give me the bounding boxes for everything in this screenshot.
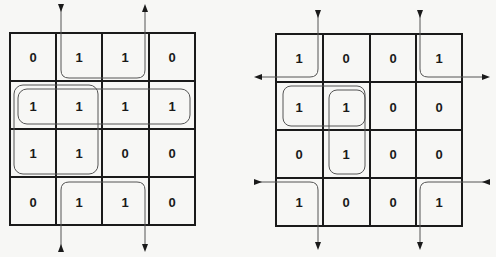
right-kmap: 1 0 0 1 1 1 0 0 0 1 0 0 1 0 0 1 (258, 14, 486, 246)
cell-r-2-2: 0 (389, 147, 396, 162)
cell-l-0-1: 1 (75, 50, 82, 65)
cell-l-3-0: 0 (29, 195, 36, 210)
cell-l-0-3: 0 (168, 50, 175, 65)
cell-r-3-3: 1 (435, 195, 442, 210)
cell-l-3-2: 1 (121, 195, 128, 210)
cell-l-1-0: 1 (29, 99, 36, 114)
cell-l-2-1: 1 (75, 146, 82, 161)
cell-r-3-0: 1 (295, 195, 302, 210)
left-kmap: 0 1 1 0 1 1 1 1 1 1 0 0 0 1 1 0 (10, 8, 195, 248)
right-grid (276, 34, 462, 226)
cell-l-2-3: 0 (168, 146, 175, 161)
cell-l-0-0: 0 (29, 50, 36, 65)
cell-l-3-1: 1 (75, 195, 82, 210)
group-row1 (18, 89, 190, 124)
cell-r-3-1: 0 (342, 195, 349, 210)
cell-r-1-2: 0 (389, 100, 396, 115)
corner-bottom-right-arrow-icon (420, 182, 486, 246)
kmap-diagram: 0 1 1 0 1 1 1 1 1 1 0 0 0 1 1 0 (0, 0, 496, 257)
cell-l-1-3: 1 (168, 99, 175, 114)
cell-r-2-1: 1 (342, 147, 349, 162)
cell-r-2-3: 0 (435, 147, 442, 162)
cell-r-0-2: 0 (389, 51, 396, 66)
cell-l-2-0: 1 (29, 146, 36, 161)
corner-top-right-arrow-icon (420, 14, 486, 77)
cell-r-3-2: 0 (389, 195, 396, 210)
corner-top-left-arrow-icon (258, 14, 318, 77)
cell-r-1-3: 0 (435, 100, 442, 115)
cell-r-0-0: 1 (295, 51, 302, 66)
cell-r-0-1: 0 (342, 51, 349, 66)
left-grid (10, 33, 195, 225)
cell-r-2-0: 0 (295, 147, 302, 162)
cell-l-1-1: 1 (75, 99, 82, 114)
cell-l-0-2: 1 (121, 50, 128, 65)
cell-r-1-0: 1 (295, 100, 302, 115)
cell-l-2-2: 0 (121, 146, 128, 161)
cell-r-0-3: 1 (435, 51, 442, 66)
corner-bottom-left-arrow-icon (258, 182, 318, 246)
cell-l-1-2: 1 (121, 99, 128, 114)
cell-r-1-1: 1 (342, 100, 349, 115)
cell-l-3-3: 0 (168, 195, 175, 210)
